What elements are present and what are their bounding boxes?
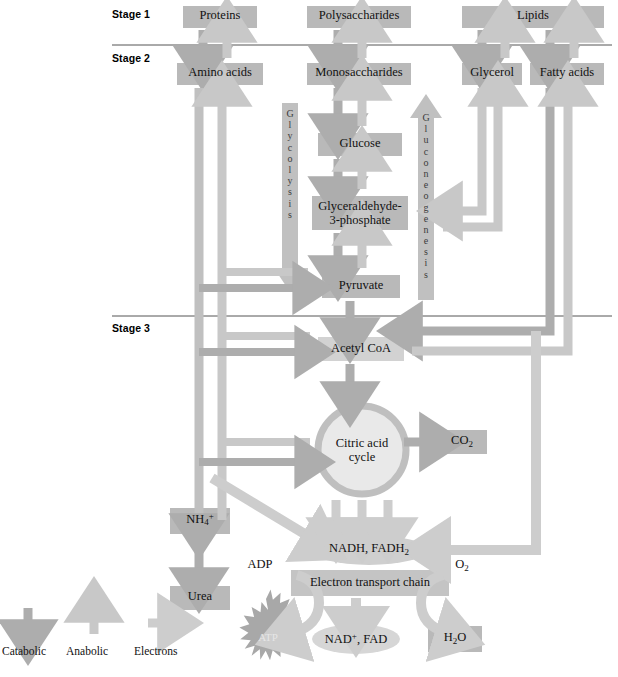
label-glycolysis: Glycolysis xyxy=(282,108,298,220)
node-polysaccharides xyxy=(307,6,411,28)
node-nad-fad xyxy=(312,624,400,654)
node-glucose xyxy=(318,133,402,156)
node-glyceraldehyde-3-phosphate xyxy=(312,196,408,230)
node-glycerol xyxy=(462,63,522,85)
node-fatty-acids xyxy=(530,63,604,85)
node-proteins xyxy=(183,6,257,28)
node-amino-acids xyxy=(177,63,263,85)
node-monosaccharides xyxy=(307,63,411,85)
node-lipids xyxy=(462,6,604,28)
stage-label-1: Stage 1 xyxy=(112,8,150,20)
node-citric-acid-cycle xyxy=(318,406,406,494)
stage-label-2: Stage 2 xyxy=(112,52,150,64)
stage-label-3: Stage 3 xyxy=(112,322,150,334)
node-acetyl-coa xyxy=(318,337,404,361)
node-atp-burst xyxy=(239,590,300,661)
legend-label-catabolic: Catabolic xyxy=(2,645,46,657)
node-co2 xyxy=(437,430,487,454)
node-nadh-fadh2 xyxy=(311,535,427,565)
arrow-glycerol-to-gluconeogenesis xyxy=(452,88,482,211)
legend-label-anabolic: Anabolic xyxy=(66,645,108,657)
metabolism-diagram xyxy=(0,0,618,677)
node-pyruvate xyxy=(322,275,400,298)
label-gluconeogenesis: Gluconeogenesis xyxy=(418,112,434,280)
legend-label-electrons: Electrons xyxy=(134,645,177,657)
node-urea xyxy=(170,586,230,610)
